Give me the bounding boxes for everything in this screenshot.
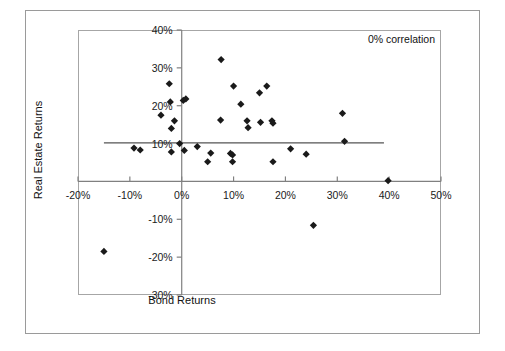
axes-group (78, 30, 441, 295)
y-axis-title: Real Estate Returns (32, 101, 44, 199)
scatter-chart-figure: -20%-10%0%10%20%30%40%50% 40%30%20%10%-1… (0, 0, 505, 351)
data-point (339, 110, 346, 117)
data-point (244, 124, 251, 131)
y-tick-label: 30% (152, 62, 173, 74)
data-point (168, 125, 175, 132)
data-points-group (100, 56, 391, 255)
data-point (204, 158, 211, 165)
x-axis-title: Bond Returns (148, 294, 215, 306)
data-point (257, 119, 264, 126)
x-tick-label: -10% (118, 189, 143, 201)
data-point (263, 82, 270, 89)
correlation-annotation: 0% correlation (368, 33, 435, 45)
y-tick-label: 40% (152, 24, 173, 36)
data-point (230, 82, 237, 89)
data-point (217, 117, 224, 124)
y-tick-label: 10% (152, 138, 173, 150)
y-tick-label: 20% (152, 100, 173, 112)
x-tick-label: -20% (66, 189, 91, 201)
data-point (269, 158, 276, 165)
y-tick-label: -10% (148, 213, 173, 225)
data-point (137, 146, 144, 153)
data-point (341, 138, 348, 145)
data-point (171, 117, 178, 124)
data-point (157, 112, 164, 119)
data-point (237, 101, 244, 108)
data-point (303, 151, 310, 158)
data-point (243, 117, 250, 124)
y-tick-label: -20% (148, 251, 173, 263)
x-tick-label: 30% (327, 189, 348, 201)
x-tick-label: 50% (430, 189, 451, 201)
data-point (256, 89, 263, 96)
data-point (100, 248, 107, 255)
data-point (194, 143, 201, 150)
data-point (229, 158, 236, 165)
data-point (310, 222, 317, 229)
data-point (166, 80, 173, 87)
x-tick-label: 0% (174, 189, 189, 201)
data-point (207, 149, 214, 156)
x-tick-label: 40% (379, 189, 400, 201)
x-tick-label: 20% (275, 189, 296, 201)
data-point (218, 56, 225, 63)
data-point (130, 145, 137, 152)
plot-canvas (0, 0, 505, 351)
data-point (385, 177, 392, 184)
x-tick-label: 10% (223, 189, 244, 201)
data-point (287, 145, 294, 152)
